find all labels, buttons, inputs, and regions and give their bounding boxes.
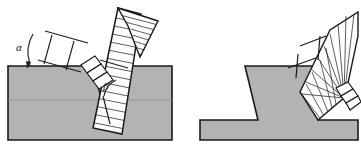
beta-label: β [102,80,109,92]
welding-diagram-figure: α β [0,0,361,151]
left-panel: α β [8,2,172,140]
alpha-label: α [16,41,22,53]
alpha-angle-indicator [26,34,33,68]
right-panel [200,12,361,140]
diagram-canvas: α β [0,0,361,151]
